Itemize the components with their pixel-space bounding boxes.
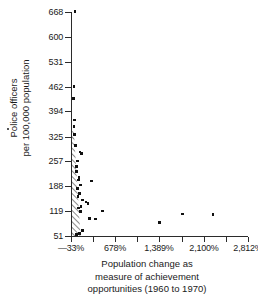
data-point [74, 10, 77, 13]
x-tick-mark [71, 237, 72, 242]
data-point [75, 233, 78, 236]
x-axis-title-line2: measure of achievement [44, 271, 250, 284]
data-point [80, 152, 83, 155]
y-tick-label: 51 [29, 232, 63, 241]
data-point [73, 133, 76, 136]
data-point [74, 144, 77, 147]
data-point [88, 217, 91, 220]
data-point [75, 170, 78, 173]
x-tick-mark [204, 237, 205, 242]
data-point [75, 165, 78, 168]
data-point [76, 160, 79, 163]
x-tick-label: 1,389% [144, 244, 173, 253]
data-point [81, 229, 84, 232]
x-minor-tick-mark [93, 237, 94, 242]
y-tick-label: 668 [29, 8, 63, 17]
x-tick-label: 2,812% [233, 244, 258, 253]
data-point [73, 85, 76, 88]
x-tick-label: —33% [58, 244, 84, 253]
x-tick-mark [115, 237, 116, 242]
data-point [77, 195, 80, 198]
x-minor-tick-mark [226, 237, 227, 242]
data-point [80, 205, 83, 208]
x-tick-mark [159, 237, 160, 242]
data-point [77, 207, 80, 210]
y-tick-label: 257 [29, 157, 63, 166]
x-minor-tick-mark [137, 237, 138, 242]
x-axis-title: Population change as measure of achievem… [44, 258, 250, 296]
data-point [76, 187, 79, 190]
y-tick-label: 394 [29, 107, 63, 116]
data-point [77, 179, 80, 182]
x-tick-label: 678% [104, 244, 126, 253]
y-tick-label: 600 [29, 33, 63, 42]
y-tick-label: 462 [29, 83, 63, 92]
y-tick-label: 119 [29, 207, 63, 216]
scatter-chart-figure: Police officers per 100,000 population 5… [0, 0, 258, 306]
x-tick-mark [248, 237, 249, 242]
y-tick-label: 325 [29, 133, 63, 142]
x-minor-tick-mark [182, 237, 183, 242]
x-tick-label: 2,100% [189, 244, 218, 253]
x-axis-title-line1: Population change as [44, 258, 250, 271]
y-axis-title-line1: Police officers [8, 44, 20, 172]
data-point [78, 232, 81, 235]
data-point [87, 202, 90, 205]
data-point [90, 180, 93, 183]
plot-area [71, 12, 248, 236]
data-point [79, 184, 82, 187]
data-point [72, 97, 75, 100]
data-point [94, 218, 97, 221]
data-point [181, 213, 184, 216]
data-point [101, 210, 104, 213]
y-tick-label: 188 [29, 182, 63, 191]
y-tick-label: 531 [29, 58, 63, 67]
data-point [79, 210, 82, 213]
data-point [73, 125, 76, 128]
data-point [212, 213, 215, 216]
data-point [158, 221, 161, 224]
data-point [73, 119, 76, 122]
x-axis-title-line3: opportunities (1960 to 1970) [44, 283, 250, 296]
